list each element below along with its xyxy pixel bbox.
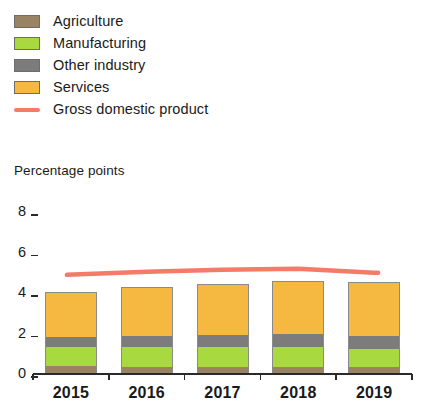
y-axis-tick-mark <box>31 255 38 257</box>
bar-segment-manufacturing <box>197 347 249 367</box>
bar-group-2015 <box>45 0 97 409</box>
bar-segment-other-industry <box>272 334 324 347</box>
x-axis-tick-label: 2018 <box>258 385 338 401</box>
y-axis-tick-mark <box>31 214 38 216</box>
x-axis-tick-mark <box>184 374 186 380</box>
y-axis-tick-label: 8 <box>8 204 26 219</box>
x-axis-line <box>33 373 412 375</box>
y-axis-tick-label: 0 <box>8 366 26 381</box>
y-axis-tick-mark <box>31 336 38 338</box>
x-axis-tick-mark <box>32 374 34 380</box>
bar-segment-services <box>45 292 97 337</box>
bar-segment-services <box>121 287 173 336</box>
bar-group-2019 <box>348 0 400 409</box>
bar-segment-other-industry <box>45 337 97 347</box>
bar-group-2016 <box>121 0 173 409</box>
bar-segment-manufacturing <box>45 347 97 366</box>
x-axis-tick-mark <box>411 374 413 380</box>
x-axis-tick-mark <box>108 374 110 380</box>
chart-plot-area: 86420 20152016201720182019 <box>0 0 426 409</box>
y-axis-tick-label: 4 <box>8 285 26 300</box>
bar-segment-manufacturing <box>348 349 400 367</box>
bar-segment-manufacturing <box>121 347 173 367</box>
x-axis-tick-label: 2017 <box>183 385 263 401</box>
x-axis-tick-label: 2016 <box>107 385 187 401</box>
y-axis-tick-label: 6 <box>8 245 26 260</box>
bar-segment-agriculture <box>45 366 97 373</box>
bar-segment-services <box>348 282 400 336</box>
bar-group-2017 <box>197 0 249 409</box>
x-axis-tick-mark <box>335 374 337 380</box>
bar-segment-services <box>197 284 249 335</box>
x-axis-tick-label: 2019 <box>334 385 414 401</box>
bar-group-2018 <box>272 0 324 409</box>
y-axis-tick-mark <box>31 295 38 297</box>
bar-segment-other-industry <box>348 336 400 349</box>
bar-segment-other-industry <box>121 336 173 347</box>
x-axis-tick-label: 2015 <box>31 385 111 401</box>
bar-segment-other-industry <box>197 335 249 347</box>
bar-segment-services <box>272 281 324 334</box>
y-axis-tick-label: 2 <box>8 326 26 341</box>
bar-segment-manufacturing <box>272 347 324 367</box>
x-axis-tick-mark <box>260 374 262 380</box>
